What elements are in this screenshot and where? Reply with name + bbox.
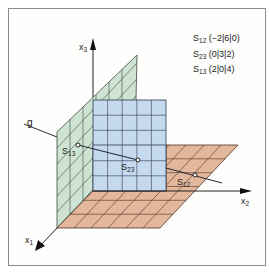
point-s12-label: S12 [177,177,190,188]
x2-arrow-icon [240,188,252,194]
legend-item-s13: S13 (2|0|4) [193,63,240,79]
x2-axis-label: x2 [241,196,249,207]
point-s12 [193,173,197,177]
legend-item-s23: S23 (0|3|2) [193,48,240,64]
coordinates-legend: S12 (−2|6|0) S23 (0|3|2) S13 (2|0|4) [193,32,240,79]
point-s23 [136,158,140,162]
line-g-label: g [27,117,33,128]
legend-item-s12: S12 (−2|6|0) [193,32,240,48]
point-s13-label: S13 [62,146,75,157]
x1-axis [40,228,57,246]
point-s23-label: S23 [121,162,134,173]
x1x2-plane [0,145,269,228]
x3-arrow-icon [90,38,96,50]
x3-axis-label: x3 [79,42,87,53]
x1-axis-label: x1 [25,235,33,246]
point-s13 [76,143,80,147]
